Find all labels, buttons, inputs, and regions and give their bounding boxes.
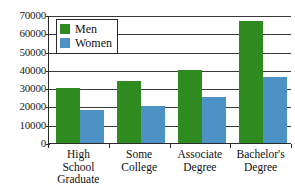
y-tick-label: 0 — [2, 138, 46, 149]
bar-group — [239, 16, 287, 143]
bar-chart: 010000200003000040000500006000070000 Hig… — [0, 0, 295, 189]
chart-legend: Men Women — [56, 19, 118, 54]
x-axis-label-line: Graduate — [42, 173, 115, 186]
x-axis-label: Bachelor'sDegree — [224, 148, 295, 173]
y-tick-label: 70000 — [2, 10, 46, 21]
y-tick-label: 20000 — [2, 101, 46, 112]
x-axis-labels: HighSchoolGraduateSomeCollegeAssociateDe… — [48, 148, 295, 189]
y-tick-label: 30000 — [2, 83, 46, 94]
bar-women — [141, 106, 165, 143]
y-tick-label: 60000 — [2, 28, 46, 39]
bar-men — [117, 81, 141, 143]
legend-item-women: Women — [60, 36, 112, 50]
bar-men — [56, 88, 80, 143]
bar-women — [263, 77, 287, 143]
x-axis-label-line: Bachelor's — [224, 148, 295, 161]
legend-item-men: Men — [60, 22, 112, 36]
green-square-icon — [60, 24, 70, 34]
y-axis: 010000200003000040000500006000070000 — [0, 0, 46, 189]
bar-men — [239, 21, 263, 143]
bar-group — [178, 16, 226, 143]
y-tick-label: 10000 — [2, 120, 46, 131]
y-tick-label: 40000 — [2, 65, 46, 76]
x-axis-label-line: Degree — [224, 161, 295, 174]
legend-label-men: Men — [75, 23, 97, 35]
bar-women — [80, 110, 104, 143]
legend-label-women: Women — [75, 37, 112, 49]
blue-square-icon — [60, 38, 70, 48]
bar-women — [202, 97, 226, 143]
bar-men — [178, 70, 202, 143]
bar-group — [117, 16, 165, 143]
y-tick-label: 50000 — [2, 47, 46, 58]
